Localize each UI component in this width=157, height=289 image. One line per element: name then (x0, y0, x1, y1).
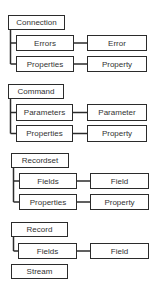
connection-error-box: Error (87, 35, 147, 51)
record-fields-box: Fields (18, 243, 77, 259)
command-properties-box: Properties (16, 125, 73, 142)
record-field-box: Field (90, 243, 149, 259)
record-box: Record (11, 222, 68, 237)
command-box: Command (8, 84, 64, 99)
connection-box: Connection (8, 15, 65, 30)
recordset-box: Recordset (11, 153, 69, 168)
command-parameters-box: Parameters (16, 104, 73, 121)
recordset-property-box: Property (90, 194, 149, 210)
connection-errors-box: Errors (16, 35, 74, 51)
stream-box: Stream (11, 264, 68, 279)
recordset-properties-box: Properties (19, 194, 77, 210)
ado-object-model-diagram: Connection Errors Error Properties Prope… (0, 0, 157, 289)
command-parameter-box: Parameter (87, 104, 147, 121)
recordset-field-box: Field (90, 173, 149, 189)
connection-properties-box: Properties (16, 56, 74, 72)
connection-property-box: Property (87, 56, 147, 72)
command-property-box: Property (87, 125, 147, 142)
recordset-fields-box: Fields (19, 173, 77, 189)
